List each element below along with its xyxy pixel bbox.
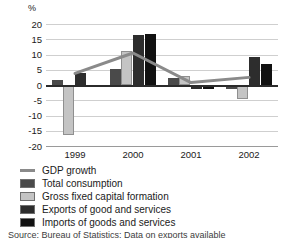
zero-axis-line (46, 85, 278, 87)
legend-swatch-icon (20, 179, 35, 188)
legend-label: Total consumption (42, 178, 123, 190)
legend-item[interactable]: GDP growth (20, 164, 270, 177)
y-tick-label: 15 (18, 35, 42, 44)
legend-label: Gross fixed capital formation (42, 191, 169, 203)
legend-label: Exports of good and services (42, 204, 171, 216)
y-tick-label: -15 (18, 126, 42, 135)
legend-item[interactable]: Exports of good and services (20, 203, 270, 216)
x-tick-label: 2002 (220, 150, 278, 160)
y-tick-label: 20 (18, 20, 42, 29)
legend-line-icon (20, 166, 35, 175)
source-note: Source: Bureau of Statistics; Data on ex… (8, 230, 285, 238)
y-tick-label: 5 (18, 65, 42, 74)
x-tick-label: 1999 (46, 150, 104, 160)
y-tick-label: -20 (18, 142, 42, 151)
chart-legend: GDP growthTotal consumptionGross fixed c… (20, 164, 270, 229)
y-tick-label: 10 (18, 50, 42, 59)
grid-area (46, 24, 278, 146)
legend-item[interactable]: Gross fixed capital formation (20, 190, 270, 203)
legend-label: Imports of goods and services (42, 217, 175, 229)
legend-swatch-icon (20, 218, 35, 227)
chart-figure: % 20151050-5-10-15-20 1999200020012002 G… (0, 0, 285, 238)
y-tick-label: 0 (18, 81, 42, 90)
x-axis-tick-labels: 1999200020012002 (46, 150, 278, 164)
x-tick-label: 2001 (162, 150, 220, 160)
legend-item[interactable]: Total consumption (20, 177, 270, 190)
plot-area: % 20151050-5-10-15-20 1999200020012002 (0, 0, 285, 152)
y-tick-label: -10 (18, 111, 42, 120)
legend-swatch-icon (20, 205, 35, 214)
legend-item[interactable]: Imports of goods and services (20, 216, 270, 229)
x-tick-label: 2000 (104, 150, 162, 160)
legend-label: GDP growth (42, 165, 96, 177)
x-axis-line (46, 146, 278, 147)
legend-swatch-icon (20, 192, 35, 201)
y-tick-label: -5 (18, 96, 42, 105)
y-axis-tick-labels: 20151050-5-10-15-20 (0, 0, 42, 152)
